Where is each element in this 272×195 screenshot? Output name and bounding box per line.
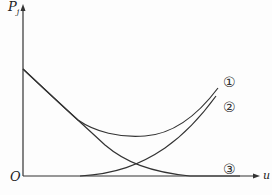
curve-1-label: ① — [223, 75, 236, 89]
x-axis-label: u — [263, 170, 270, 181]
y-axis-arrow-icon — [21, 4, 26, 11]
curve-3-label: ③ — [223, 162, 236, 176]
chart: Pj u O ① ② ③ — [0, 0, 272, 195]
y-axis-label: Pj — [8, 0, 19, 16]
curve-1 — [23, 69, 218, 136]
origin-label: O — [10, 170, 21, 183]
curve-2-label: ② — [223, 100, 236, 114]
x-axis-arrow-icon — [253, 174, 260, 179]
curve-3 — [23, 69, 240, 176]
